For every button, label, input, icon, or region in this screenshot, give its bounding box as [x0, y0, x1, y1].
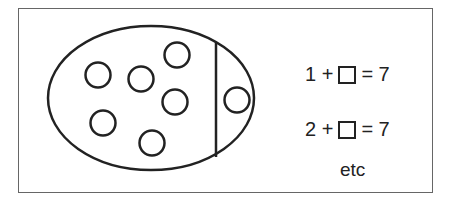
dot — [91, 111, 116, 136]
blank-box — [338, 121, 356, 139]
dot — [129, 67, 154, 92]
dot — [225, 88, 250, 113]
equation-1: 1 + = 7 — [305, 63, 390, 86]
addend: 1 — [305, 63, 316, 86]
equals-result: = 7 — [361, 118, 389, 141]
equation-2: 2 + = 7 — [305, 118, 390, 141]
dot — [86, 63, 111, 88]
equals-result: = 7 — [361, 63, 389, 86]
plus-sign: + — [322, 63, 334, 86]
blank-box — [338, 66, 356, 84]
plus-sign: + — [322, 118, 334, 141]
ladybug-diagram — [0, 0, 454, 207]
etc-label: etc — [340, 159, 365, 181]
dot — [140, 131, 165, 156]
dot — [165, 43, 190, 68]
addend: 2 — [305, 118, 316, 141]
dot — [163, 90, 188, 115]
ladybug-body — [48, 26, 254, 170]
